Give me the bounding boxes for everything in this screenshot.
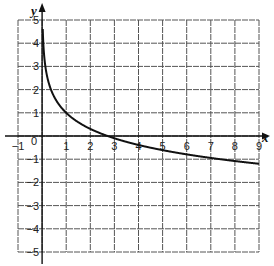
y-tick-label: 2: [33, 84, 39, 96]
function-curve: [43, 29, 259, 164]
x-tick-label: 3: [111, 140, 117, 152]
x-axis-label: x: [261, 130, 269, 145]
y-tick-label: −3: [27, 200, 40, 212]
x-tick-label: 7: [208, 140, 214, 152]
y-tick-label: −4: [27, 223, 40, 235]
x-tick-label: 1: [63, 140, 69, 152]
function-graph: −1012345678954321−1−2−3−4−5 x y: [0, 0, 274, 266]
x-tick-label: 6: [184, 140, 190, 152]
y-tick-label: −5: [27, 246, 40, 258]
x-tick-label: −1: [12, 140, 25, 152]
x-tick-label: 0: [31, 135, 37, 147]
y-tick-label: 4: [33, 37, 39, 49]
y-axis-arrow-icon: [39, 3, 46, 12]
y-tick-label: −1: [27, 153, 40, 165]
y-tick-label: 1: [33, 107, 39, 119]
x-tick-label: 2: [87, 140, 93, 152]
y-tick-label: −2: [27, 176, 40, 188]
y-tick-label: 3: [33, 60, 39, 72]
axes: [5, 3, 270, 264]
x-tick-label: 8: [232, 140, 238, 152]
y-axis-label: y: [29, 3, 37, 18]
